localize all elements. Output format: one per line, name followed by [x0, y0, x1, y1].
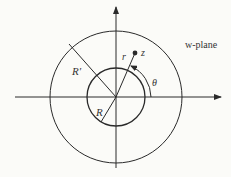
inner-radius-label: R	[95, 106, 103, 118]
w-plane-diagram: R′ R r z θ w-plane	[0, 0, 231, 177]
plane-label: w-plane	[185, 39, 218, 50]
point-z	[133, 51, 138, 56]
outer-radius-label: R′	[71, 65, 82, 77]
inner-radius-line	[101, 97, 116, 122]
modulus-label: r	[122, 51, 126, 62]
point-label: z	[140, 47, 145, 58]
angle-label: θ	[152, 77, 157, 88]
